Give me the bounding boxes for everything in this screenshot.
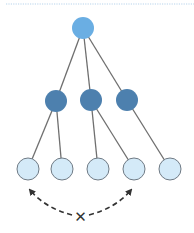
edge-root-m1 bbox=[56, 28, 83, 101]
leaf-node-l2 bbox=[51, 158, 73, 180]
tree-diagram: ✕ bbox=[0, 0, 194, 233]
arrow-left bbox=[30, 190, 72, 215]
middle-node-m3 bbox=[116, 89, 138, 111]
root-node-root bbox=[72, 17, 94, 39]
nodes-group bbox=[17, 17, 181, 180]
leaf-node-l4 bbox=[123, 158, 145, 180]
middle-node-m1 bbox=[45, 90, 67, 112]
leaf-node-l1 bbox=[17, 158, 39, 180]
blocked-x-icon: ✕ bbox=[74, 208, 87, 226]
leaf-node-l5 bbox=[159, 158, 181, 180]
blocked-link-group: ✕ bbox=[30, 190, 131, 226]
middle-node-m2 bbox=[80, 89, 102, 111]
arrow-right bbox=[89, 190, 131, 215]
leaf-node-l3 bbox=[87, 158, 109, 180]
